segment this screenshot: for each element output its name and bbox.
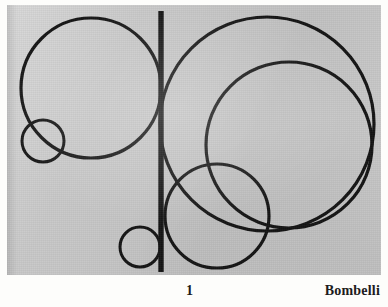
bottom-center-circle (165, 164, 269, 268)
caption: 1 Bombelli (0, 278, 388, 307)
page-root: 1 Bombelli (0, 0, 388, 307)
large-left-circle (21, 18, 161, 158)
small-bottom-circle (120, 227, 160, 267)
plate-artist-name: Bombelli (325, 283, 380, 299)
inner-right-circle (206, 62, 372, 228)
printed-plate (7, 5, 381, 275)
plate-number: 1 (186, 283, 193, 299)
artwork-svg (7, 5, 381, 275)
artwork-canvas (7, 5, 381, 275)
